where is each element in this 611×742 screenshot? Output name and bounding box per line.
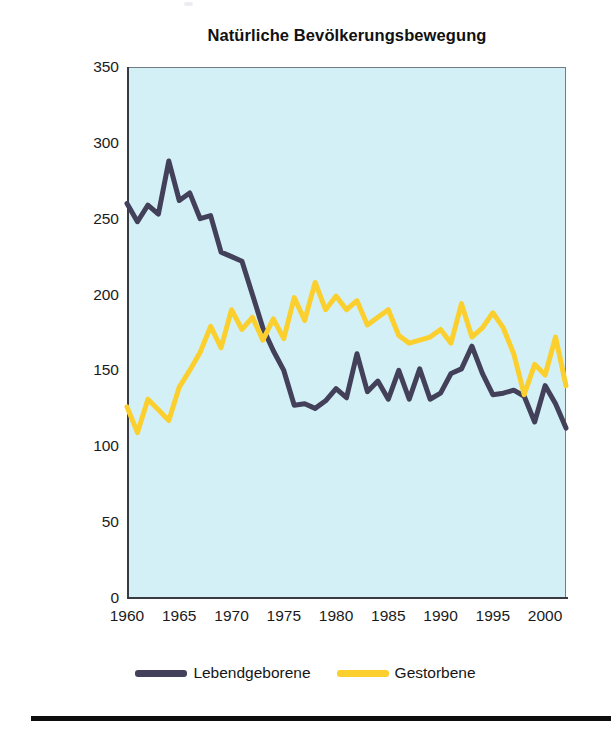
series-line-lebendgeborene bbox=[127, 161, 566, 428]
legend-entry-lebendgeborene: Lebendgeborene bbox=[135, 664, 310, 682]
y-tick-label: 150 bbox=[67, 361, 119, 379]
y-tick-label: 50 bbox=[67, 513, 119, 531]
x-tick-label: 1970 bbox=[202, 607, 262, 625]
y-tick-label: 200 bbox=[67, 286, 119, 304]
footer-divider bbox=[31, 716, 611, 721]
x-tick-label: 1985 bbox=[358, 607, 418, 625]
x-tick-label: 2000 bbox=[515, 607, 575, 625]
series-line-gestorbene bbox=[127, 282, 566, 432]
data-series-layer bbox=[127, 67, 566, 598]
chart-title: Natürliche Bevölkerungsbewegung bbox=[127, 26, 567, 45]
legend-swatch-gestorbene bbox=[337, 670, 389, 677]
scan-artifact bbox=[184, 2, 193, 6]
chart-figure: Natürliche Bevölkerungsbewegung 35030025… bbox=[0, 0, 611, 742]
y-tick-label: 300 bbox=[67, 134, 119, 152]
y-tick-label: 250 bbox=[67, 210, 119, 228]
x-tick-label: 1960 bbox=[97, 607, 157, 625]
y-tick-label: 0 bbox=[67, 589, 119, 607]
legend-entry-gestorbene: Gestorbene bbox=[337, 664, 476, 682]
chart-legend: Lebendgeborene Gestorbene bbox=[0, 664, 611, 682]
legend-label-lebendgeborene: Lebendgeborene bbox=[193, 664, 310, 682]
y-tick-label: 350 bbox=[67, 58, 119, 76]
legend-label-gestorbene: Gestorbene bbox=[395, 664, 476, 682]
x-tick-label: 1965 bbox=[149, 607, 209, 625]
legend-swatch-lebendgeborene bbox=[135, 670, 187, 677]
y-tick-label: 100 bbox=[67, 437, 119, 455]
x-tick-label: 1990 bbox=[411, 607, 471, 625]
x-tick-label: 1995 bbox=[463, 607, 523, 625]
x-tick-label: 1975 bbox=[254, 607, 314, 625]
x-tick-label: 1980 bbox=[306, 607, 366, 625]
